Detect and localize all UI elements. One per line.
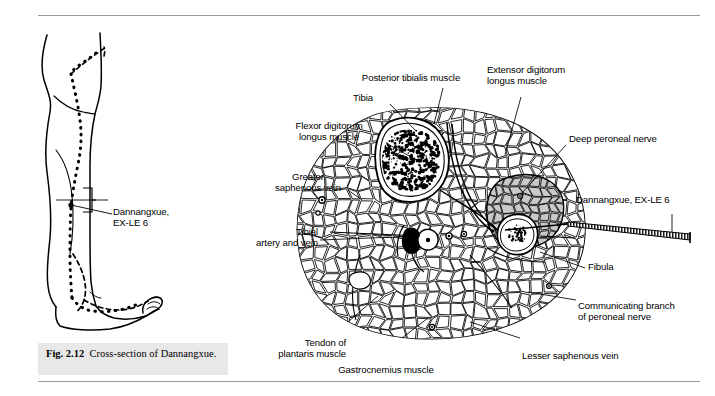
label-tendon-of-plantaris-muscle: Tendon of plantaris muscle xyxy=(254,337,346,360)
label-tibial-artery-and-vein: Tibial artery and vein xyxy=(222,226,318,249)
leg-point-line1: Dannangxue, xyxy=(113,206,169,217)
label-posterior-tibialis-muscle: Posterior tibialis muscle xyxy=(331,72,491,83)
label-lesser-saphenous-vein: Lesser saphenous vein xyxy=(522,350,662,361)
meridian-dashed-foot xyxy=(73,254,148,312)
label-deep-peroneal-nerve: Deep peroneal nerve xyxy=(569,133,699,144)
deep-peroneal-nerve-marking xyxy=(518,194,523,199)
tibia-bone xyxy=(375,118,449,202)
label-greater-saphenous-vein: Greater saphenous vein xyxy=(266,171,350,194)
label-flexor-digitorum-longus-muscle: Flexor digitorum longus muscle xyxy=(272,120,386,143)
label-tibia: Tibia xyxy=(333,92,393,103)
leg-point-line2: EX-LE 6 xyxy=(113,217,148,228)
label-needle-dannangxue: Dannangxue, EX-LE 6 xyxy=(576,194,715,205)
meridian-dotted-line xyxy=(70,53,140,312)
leg-lateral-view xyxy=(42,33,162,330)
label-fibula: Fibula xyxy=(588,261,658,272)
label-communicating-branch-of-peroneal-nerve: Communicating branch of peroneal nerve xyxy=(578,300,710,323)
label-gastrocnemius-muscle: Gastrocnemius muscle xyxy=(316,364,456,375)
tendon-of-plantaris-marking xyxy=(349,272,370,289)
label-extensor-digitorum-longus-muscle: Extensor digitorum longus muscle xyxy=(487,64,617,87)
figure-page: Fig. 2.12 Cross-section of Dannangxue. xyxy=(0,0,715,396)
lesser-saphenous-vein-marking xyxy=(429,324,434,329)
communicating-peroneal-branch-marking xyxy=(547,284,552,289)
label-leg-point-dannangxue: Dannangxue,EX-LE 6 xyxy=(113,206,213,229)
fibula-bone xyxy=(497,214,537,254)
